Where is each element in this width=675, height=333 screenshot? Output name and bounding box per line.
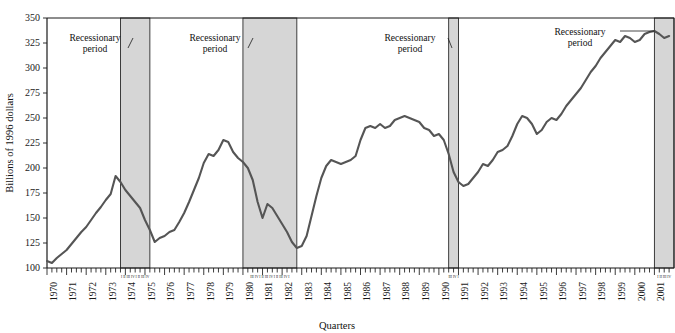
recession-band-quarter-labels-1: III IV I II III IV I II III IV I (250, 275, 290, 279)
y-tick-label: 200 (25, 162, 40, 173)
x-tick-label-1999: 1999 (617, 282, 627, 301)
y-tick-label: 150 (25, 212, 40, 223)
x-tick-label-1974: 1974 (127, 282, 137, 301)
x-tick-label-1998: 1998 (597, 282, 607, 301)
x-tick-label-2000: 2000 (637, 282, 647, 301)
y-tick-label: 225 (25, 137, 40, 148)
annotation-recessionary-2-line1: Recessionary (384, 32, 435, 43)
annotation-recessionary-1-line1: Recessionary (189, 32, 240, 43)
x-tick-label-1983: 1983 (304, 282, 314, 301)
y-tick-label: 275 (25, 87, 40, 98)
recession-band-quarter-labels-2: III IV I (448, 275, 459, 279)
recession-band-0 (120, 18, 149, 268)
y-tick-label: 175 (25, 187, 40, 198)
recession-band-3 (654, 18, 674, 268)
annotation-recessionary-3-line2: period (568, 37, 593, 48)
x-tick-label-1971: 1971 (68, 282, 78, 301)
x-tick-label-1988: 1988 (401, 282, 411, 301)
x-tick-label-1992: 1992 (480, 282, 490, 301)
x-tick-label-1996: 1996 (558, 282, 568, 301)
x-tick-label-1989: 1989 (421, 282, 431, 301)
x-tick-label-1994: 1994 (519, 282, 529, 301)
chart-figure: I II III IV I II III IVIII IV I II III I… (0, 0, 675, 333)
recession-band-quarter-labels-3: I II III IV (657, 275, 671, 279)
x-tick-label-1979: 1979 (225, 282, 235, 301)
x-tick-label-1980: 1980 (245, 282, 255, 301)
recession-band-quarter-labels-0: I II III IV I II III IV (121, 275, 150, 279)
x-tick-label-1986: 1986 (362, 282, 372, 301)
x-tick-label-1987: 1987 (382, 282, 392, 301)
x-tick-label-1975: 1975 (147, 282, 157, 301)
y-axis-title: Billions of 1996 dollars (4, 93, 15, 192)
x-tick-label-1993: 1993 (499, 282, 509, 301)
x-tick-label-1970: 1970 (49, 282, 59, 301)
x-tick-label-1978: 1978 (206, 282, 216, 301)
x-tick-label-1981: 1981 (264, 282, 274, 301)
x-tick-label-1990: 1990 (441, 282, 451, 301)
annotation-recessionary-2-line2: period (398, 43, 423, 54)
annotation-recessionary-0-line2: period (83, 43, 108, 54)
y-tick-label: 300 (25, 62, 40, 73)
x-tick-label-1985: 1985 (343, 282, 353, 301)
annotation-recessionary-0-line1: Recessionary (69, 32, 120, 43)
annotation-recessionary-1-line2: period (203, 43, 228, 54)
x-tick-label-1972: 1972 (88, 282, 98, 301)
x-tick-label-1977: 1977 (186, 282, 196, 301)
x-tick-label-1984: 1984 (323, 282, 333, 301)
x-tick-label-1995: 1995 (539, 282, 549, 301)
x-tick-label-2001: 2001 (656, 282, 666, 301)
y-tick-label: 125 (25, 237, 40, 248)
x-tick-label-1973: 1973 (108, 282, 118, 301)
x-tick-label-1991: 1991 (460, 282, 470, 301)
y-tick-label: 325 (25, 37, 40, 48)
x-tick-label-1982: 1982 (284, 282, 294, 301)
investment-line-chart: I II III IV I II III IVIII IV I II III I… (0, 0, 675, 333)
y-tick-label: 250 (25, 112, 40, 123)
recession-band-1 (243, 18, 297, 268)
x-tick-label-1997: 1997 (578, 282, 588, 301)
y-tick-label: 350 (25, 12, 40, 23)
annotation-recessionary-3-line1: Recessionary (554, 26, 605, 37)
y-tick-label: 100 (25, 262, 40, 273)
x-axis-title: Quarters (319, 320, 355, 331)
recession-band-2 (449, 18, 459, 268)
x-tick-label-1976: 1976 (166, 282, 176, 301)
